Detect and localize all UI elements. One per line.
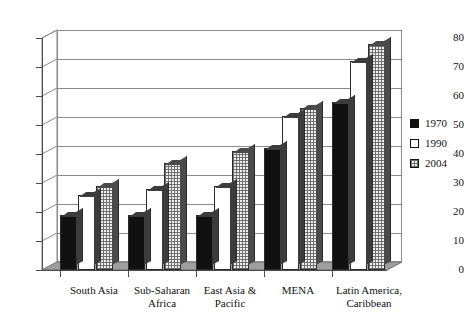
chart-legend: 1970 1990 2004 — [410, 113, 447, 173]
bar-1970-latin-america-caribbean[interactable] — [332, 102, 349, 270]
legend-swatch-icon-2004 — [410, 159, 419, 168]
bar-side-face — [76, 208, 83, 265]
cat-line: Latin America, — [326, 284, 412, 297]
bar-side-face — [366, 54, 373, 265]
cat-line: Sub-Saharan — [126, 284, 198, 297]
cat-line: MENA — [262, 284, 334, 297]
cat-line: Pacific — [194, 297, 266, 310]
x-category-label-sub-saharan-africa: Sub-Saharan Africa — [126, 284, 198, 310]
bar-1970-sub-saharan-africa[interactable] — [128, 215, 145, 270]
x-category-label-latin-america-caribbean: Latin America, Caribbean — [326, 284, 412, 310]
cat-line: Caribbean — [326, 297, 412, 310]
bar-side-face — [384, 37, 391, 265]
bar-side-face — [248, 144, 255, 265]
bar-1970-east-asia-pacific[interactable] — [196, 215, 213, 270]
bars-layer — [0, 0, 464, 328]
legend-item-1970[interactable]: 1970 — [410, 113, 447, 133]
bar-chart: 0 10 20 30 40 50 60 70 80 South Asia Sub… — [0, 0, 464, 328]
bar-side-face — [212, 208, 219, 265]
bar-side-face — [112, 179, 119, 265]
bar-side-face — [280, 141, 287, 265]
legend-swatch-icon-1990 — [410, 139, 419, 148]
bar-1970-mena[interactable] — [264, 148, 281, 270]
x-tick-4 — [332, 271, 333, 277]
x-tick-1 — [128, 271, 129, 277]
legend-item-2004[interactable]: 2004 — [410, 153, 447, 173]
bar-side-face — [180, 156, 187, 265]
x-category-label-south-asia: South Asia — [58, 284, 130, 297]
bar-side-face — [230, 179, 237, 265]
legend-item-1990[interactable]: 1990 — [410, 133, 447, 153]
x-tick-0 — [60, 271, 61, 277]
bar-side-face — [94, 188, 101, 265]
legend-label-2004: 2004 — [425, 157, 447, 169]
x-tick-3 — [264, 271, 265, 277]
cat-line: Africa — [126, 297, 198, 310]
x-category-label-mena: MENA — [262, 284, 334, 297]
x-tick-2 — [196, 271, 197, 277]
bar-1970-south-asia[interactable] — [60, 215, 77, 270]
bar-side-face — [144, 208, 151, 265]
x-category-label-east-asia-pacific: East Asia & Pacific — [194, 284, 266, 310]
bar-side-face — [162, 182, 169, 265]
plot-area: 0 10 20 30 40 50 60 70 80 South Asia Sub… — [0, 0, 464, 328]
cat-line: South Asia — [58, 284, 130, 297]
bar-side-face — [298, 109, 305, 265]
legend-label-1990: 1990 — [425, 137, 447, 149]
bar-side-face — [348, 95, 355, 265]
bar-side-face — [316, 101, 323, 265]
cat-line: East Asia & — [194, 284, 266, 297]
legend-swatch-icon-1970 — [410, 119, 419, 128]
legend-label-1970: 1970 — [425, 117, 447, 129]
